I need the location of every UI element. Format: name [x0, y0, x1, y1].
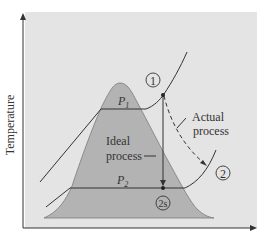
- y-axis-label: Temperature: [3, 95, 17, 155]
- state-2-label: 2: [220, 167, 226, 181]
- state-1-label: 1: [150, 74, 156, 88]
- state-1-point: [161, 93, 165, 97]
- state-2s-point: [161, 186, 165, 190]
- state-2s-label: 2s: [159, 198, 168, 209]
- actual-label-line1: Actual: [192, 110, 225, 124]
- ideal-label-line2: process: [106, 149, 142, 163]
- ts-diagram: 1 2 2s P1 P2 Ideal process Actual proces…: [0, 0, 263, 238]
- actual-label-line2: process: [193, 124, 229, 138]
- ideal-label-line1: Ideal: [106, 134, 131, 148]
